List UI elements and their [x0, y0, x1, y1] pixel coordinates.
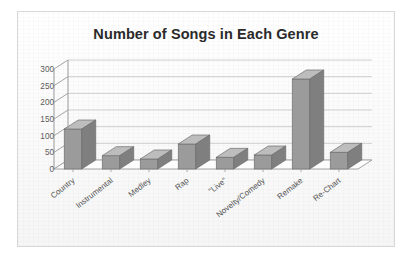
screenshot-root: Number of Songs in Each Genre 0501001502… [0, 0, 412, 258]
chart-figure: Number of Songs in Each Genre 0501001502… [17, 11, 395, 247]
x-axis-tick-labels: CountryInstrumentalMedleyRap"Live"Novelt… [18, 12, 395, 247]
chart-title: Number of Songs in Each Genre [18, 26, 394, 42]
